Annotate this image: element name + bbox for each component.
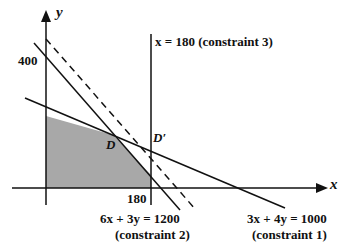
y-tick-400: 400 <box>18 53 38 69</box>
x-axis-arrow-icon <box>316 183 328 193</box>
y-axis-label: y <box>56 4 63 21</box>
constraint-3-label: x = 180 (constraint 3) <box>155 34 273 50</box>
y-axis-arrow-icon <box>41 10 51 22</box>
x-tick-180: 180 <box>127 191 147 207</box>
lp-diagram: y x 400 180 D D′ x = 180 (constraint 3) … <box>0 0 347 251</box>
constraint-1-name: (constraint 1) <box>252 227 327 243</box>
constraint-2-name: (constraint 2) <box>115 227 190 243</box>
point-d-prime-label: D′ <box>153 130 166 146</box>
feasible-region <box>46 116 151 188</box>
x-axis-label: x <box>330 176 338 193</box>
constraint-2-equation: 6x + 3y = 1200 <box>100 211 180 227</box>
constraint-1-equation: 3x + 4y = 1000 <box>247 211 327 227</box>
point-d-label: D <box>106 137 115 153</box>
